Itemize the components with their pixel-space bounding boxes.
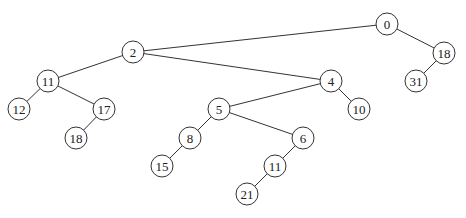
node-label: 11: [269, 159, 282, 174]
edge-5-6: [219, 109, 303, 138]
edge-4-5: [219, 81, 331, 109]
tree-node-21: 21: [236, 183, 258, 205]
node-label: 17: [98, 102, 112, 117]
node-label: 10: [353, 102, 366, 117]
node-label: 2: [130, 45, 137, 60]
tree-node-6: 6: [292, 127, 314, 149]
tree-diagram: 01831211121718410581561121: [0, 0, 466, 218]
tree-node-12: 12: [8, 98, 30, 120]
nodes-group: 01831211121718410581561121: [8, 13, 455, 205]
tree-node-2: 2: [122, 41, 144, 63]
tree-node-11: 11: [264, 155, 286, 177]
tree-node-18: 18: [65, 127, 87, 149]
node-label: 8: [187, 131, 194, 146]
node-label: 18: [438, 46, 451, 61]
node-label: 5: [216, 102, 223, 117]
node-label: 18: [70, 131, 83, 146]
node-label: 4: [328, 74, 335, 89]
edge-0-2: [133, 24, 387, 52]
node-label: 6: [300, 131, 307, 146]
edges-group: [19, 24, 444, 194]
node-label: 0: [384, 17, 391, 32]
tree-node-15: 15: [151, 155, 173, 177]
tree-node-17: 17: [93, 98, 115, 120]
node-label: 12: [13, 102, 26, 117]
edge-2-4: [133, 52, 331, 81]
tree-node-10: 10: [348, 98, 370, 120]
node-label: 11: [42, 74, 55, 89]
tree-node-0: 0: [376, 13, 398, 35]
node-label: 21: [241, 187, 254, 202]
tree-node-4: 4: [320, 70, 342, 92]
tree-node-5: 5: [208, 98, 230, 120]
tree-node-18: 18: [433, 42, 455, 64]
tree-node-8: 8: [179, 127, 201, 149]
edge-2-11: [48, 52, 133, 81]
node-label: 31: [410, 74, 423, 89]
tree-node-11: 11: [37, 70, 59, 92]
node-label: 15: [156, 159, 169, 174]
tree-node-31: 31: [405, 70, 427, 92]
